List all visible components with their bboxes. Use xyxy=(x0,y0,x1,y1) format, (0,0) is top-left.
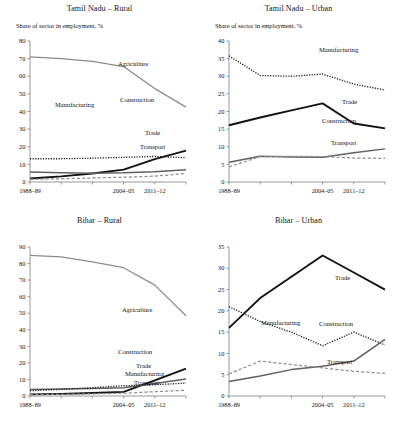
plot-svg: 05101520253035401988–892004–052011–12Man… xyxy=(199,4,398,212)
x-tick-label: 2004–05 xyxy=(312,401,334,408)
plot-svg: 010203040506070801988–892004–052011–12Ag… xyxy=(0,4,199,212)
x-tick-label: 2004–05 xyxy=(312,187,334,194)
x-tick-label: 1988–89 xyxy=(19,401,41,408)
multi-panel-line-chart-figure: Tamil Nadu – Rural Share of sector in em… xyxy=(0,0,398,425)
y-tick-label: 40 xyxy=(19,326,25,333)
y-tick-label: 5 xyxy=(221,161,224,168)
y-tick-label: 10 xyxy=(218,143,224,150)
plot-area: 051015202530351988–892004–052011–12Trade… xyxy=(199,216,398,422)
y-tick-label: 25 xyxy=(218,90,224,97)
x-tick-label: 2004–05 xyxy=(113,187,135,194)
x-tick-label: 1988–89 xyxy=(218,187,240,194)
y-tick-label: 0 xyxy=(22,178,25,185)
y-tick-label: 10 xyxy=(218,350,224,357)
series-line-construction xyxy=(30,151,186,179)
y-tick-label: 40 xyxy=(218,37,224,44)
y-tick-label: 10 xyxy=(19,161,25,168)
series-line-construction xyxy=(229,149,385,162)
y-tick-label: 0 xyxy=(221,392,224,399)
y-tick-label: 70 xyxy=(19,276,25,283)
series-line-manufacturing xyxy=(229,307,385,346)
y-tick-label: 0 xyxy=(221,178,224,185)
x-tick-label: 2004–05 xyxy=(113,401,135,408)
series-label-construction: Construction xyxy=(322,117,357,124)
series-label-trade: Trade xyxy=(136,362,151,369)
x-tick-label: 2011–12 xyxy=(343,401,364,408)
plot-area: 010203040506070801988–892004–052011–12Ag… xyxy=(0,4,199,212)
panel-bihar-urban: Bihar – Urban 051015202530351988–892004–… xyxy=(199,216,398,422)
y-tick-label: 90 xyxy=(19,243,25,250)
series-label-agriculture: Agriculture xyxy=(118,60,148,67)
y-tick-label: 50 xyxy=(19,309,25,316)
series-label-trade: Trade xyxy=(342,98,357,105)
series-line-construction xyxy=(229,339,385,381)
y-tick-label: 0 xyxy=(22,392,25,399)
y-tick-label: 20 xyxy=(19,143,25,150)
series-line-trade xyxy=(229,103,385,128)
series-line-trade xyxy=(229,256,385,328)
series-label-trade: Trade xyxy=(335,274,350,281)
x-tick-label: 1988–89 xyxy=(218,401,240,408)
plot-svg: 051015202530351988–892004–052011–12Trade… xyxy=(199,216,398,422)
series-line-agriculture xyxy=(30,57,186,107)
plot-svg: 01020304050607080901988–892004–052011–12… xyxy=(0,216,199,422)
y-tick-label: 50 xyxy=(19,90,25,97)
y-tick-label: 15 xyxy=(218,125,224,132)
series-line-manufacturing xyxy=(229,56,385,90)
y-tick-label: 35 xyxy=(218,55,224,62)
y-tick-label: 35 xyxy=(218,243,224,250)
series-line-agriculture xyxy=(30,255,186,315)
series-label-transport: Transport xyxy=(140,143,166,150)
y-tick-label: 10 xyxy=(19,376,25,383)
y-tick-label: 40 xyxy=(19,108,25,115)
x-tick-label: 2011–12 xyxy=(343,187,364,194)
y-tick-label: 60 xyxy=(19,293,25,300)
y-tick-label: 30 xyxy=(218,264,224,271)
series-line-manufacturing xyxy=(30,383,186,391)
series-label-manufacturing: Manufacturing xyxy=(319,46,359,53)
series-label-construction: Construction xyxy=(120,96,155,103)
series-label-transport: Transport xyxy=(134,379,160,386)
y-tick-label: 30 xyxy=(218,72,224,79)
series-label-manufacturing: Manufacturing xyxy=(125,370,165,377)
y-tick-label: 20 xyxy=(218,108,224,115)
y-tick-label: 15 xyxy=(218,328,224,335)
panel-tamil-nadu-rural: Tamil Nadu – Rural Share of sector in em… xyxy=(0,4,199,212)
y-tick-label: 5 xyxy=(221,371,224,378)
series-label-transport: Transport xyxy=(327,358,353,365)
x-tick-label: 2011–12 xyxy=(144,401,165,408)
y-tick-label: 60 xyxy=(19,72,25,79)
series-label-construction: Construction xyxy=(319,320,354,327)
y-tick-label: 20 xyxy=(218,307,224,314)
y-tick-label: 25 xyxy=(218,286,224,293)
x-tick-label: 1988–89 xyxy=(19,187,41,194)
y-tick-label: 20 xyxy=(19,359,25,366)
series-label-agriculture: Agriculture xyxy=(122,306,152,313)
y-tick-label: 80 xyxy=(19,260,25,267)
y-tick-label: 30 xyxy=(19,125,25,132)
series-label-trade: Trade xyxy=(145,129,160,136)
series-label-transport: Transport xyxy=(331,139,357,146)
plot-area: 01020304050607080901988–892004–052011–12… xyxy=(0,216,199,422)
y-tick-label: 30 xyxy=(19,343,25,350)
series-label-manufacturing: Manufacturing xyxy=(55,101,95,108)
y-tick-label: 70 xyxy=(19,55,25,62)
panel-bihar-rural: Bihar – Rural 01020304050607080901988–89… xyxy=(0,216,199,422)
plot-area: 05101520253035401988–892004–052011–12Man… xyxy=(199,4,398,212)
series-label-construction: Construction xyxy=(118,348,153,355)
series-label-manufacturing: Manufacturing xyxy=(261,319,301,326)
panel-tamil-nadu-urban: Tamil Nadu – Urban Share of sector in em… xyxy=(199,4,398,212)
y-tick-label: 80 xyxy=(19,37,25,44)
x-tick-label: 2011–12 xyxy=(144,187,165,194)
